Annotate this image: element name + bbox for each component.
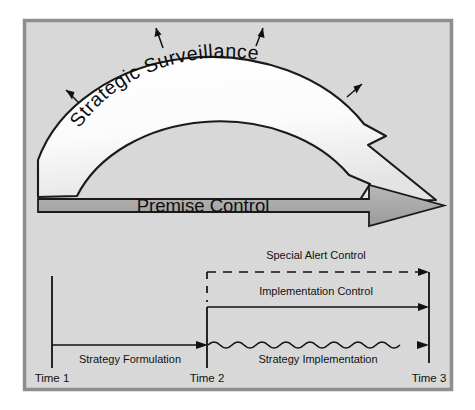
strategy-formulation-label: Strategy Formulation [79, 353, 181, 365]
premise-control-label: Premise Control [137, 195, 270, 216]
time3-label: Time 3 [412, 372, 447, 384]
time1-label: Time 1 [35, 372, 70, 384]
strategic-control-diagram: Strategic Surveillance Premise Control S… [0, 0, 475, 410]
implementation-control-label: Implementation Control [259, 285, 373, 297]
figure-canvas: Strategic Surveillance Premise Control S… [0, 0, 475, 410]
special-alert-control-label: Special Alert Control [266, 249, 366, 261]
time2-label: Time 2 [190, 372, 225, 384]
strategy-implementation-label: Strategy Implementation [258, 353, 377, 365]
